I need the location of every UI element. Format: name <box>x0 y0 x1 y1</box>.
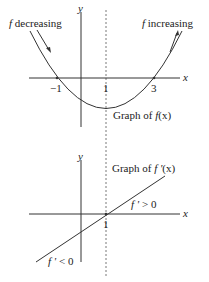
top-x-label: x <box>182 71 188 83</box>
root-left <box>56 77 59 80</box>
top-chart: y x −1 1 3 f decreasing f increasing Gra… <box>9 2 194 127</box>
increasing-arrowhead <box>175 30 179 36</box>
root-right <box>153 77 156 80</box>
tick-3: 3 <box>151 82 157 94</box>
top-y-label: y <box>77 2 83 14</box>
tick-1: 1 <box>103 82 109 94</box>
f-increasing-label: f increasing <box>142 17 194 29</box>
graph-of-f-label: Graph of f(x) <box>113 109 171 122</box>
decreasing-arrowhead <box>46 47 51 53</box>
tick-1-bottom: 1 <box>103 218 109 230</box>
graph-of-fprime-label: Graph of f '(x) <box>112 162 175 175</box>
bottom-x-label: x <box>182 207 188 219</box>
f-decreasing-label: f decreasing <box>9 17 62 29</box>
fprime-positive-label: f ' > 0 <box>131 198 157 210</box>
zero-crossing <box>105 213 108 216</box>
figure: y x −1 1 3 f decreasing f increasing Gra… <box>0 0 209 282</box>
bottom-chart: y x 1 Graph of f '(x) f ' > 0 f ' < 0 <box>29 150 188 267</box>
derivative-line <box>36 176 165 262</box>
fprime-negative-label: f ' < 0 <box>48 255 74 267</box>
bottom-y-label: y <box>77 150 83 162</box>
tick-neg1: −1 <box>50 82 62 94</box>
